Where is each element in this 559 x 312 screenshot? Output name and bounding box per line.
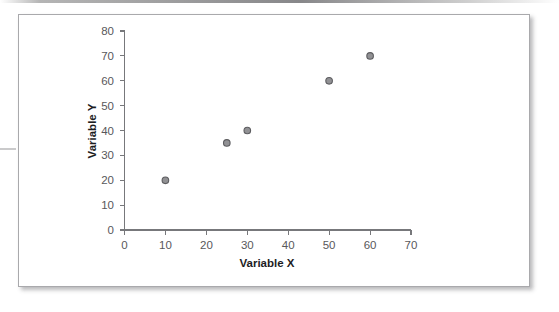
- y-tick-label-70: 70: [101, 50, 114, 62]
- y-tick-label-50: 50: [101, 100, 114, 112]
- x-tick-label-30: 30: [241, 239, 254, 251]
- y-tick-label-20: 20: [101, 174, 114, 186]
- y-tick-label-40: 40: [101, 125, 114, 137]
- data-point-group: [162, 53, 373, 184]
- y-axis-title: Variable Y: [86, 103, 98, 158]
- x-tick-label-40: 40: [282, 239, 295, 251]
- x-tick-label-70: 70: [405, 239, 418, 251]
- data-point[interactable]: [224, 140, 231, 147]
- x-tick-label-0: 0: [121, 239, 127, 251]
- x-tick-label-60: 60: [364, 239, 377, 251]
- scan-artifact-top: [0, 0, 559, 3]
- y-tick-label-60: 60: [101, 75, 114, 87]
- data-point[interactable]: [326, 78, 333, 85]
- y-tick-label-80: 80: [101, 25, 114, 37]
- data-point[interactable]: [244, 127, 251, 134]
- y-tick-label-0: 0: [108, 224, 114, 236]
- data-point[interactable]: [367, 53, 374, 60]
- scatter-plot: 0 10 20 30 40 50 60 70 80: [19, 15, 531, 288]
- scatter-plot-svg: 0 10 20 30 40 50 60 70 80: [19, 15, 531, 288]
- data-point[interactable]: [162, 177, 169, 184]
- figure-card: 0 10 20 30 40 50 60 70 80: [18, 14, 530, 287]
- y-axis-tick-labels: 0 10 20 30 40 50 60 70 80: [101, 25, 114, 236]
- y-axis-ticks: [120, 31, 125, 230]
- x-axis-ticks: [125, 230, 412, 235]
- x-axis-title: Variable X: [240, 257, 295, 269]
- scan-artifact-left: [0, 148, 16, 150]
- x-tick-label-10: 10: [159, 239, 172, 251]
- x-tick-label-20: 20: [200, 239, 213, 251]
- x-axis-tick-labels: 0 10 20 30 40 50 60 70: [121, 239, 417, 251]
- y-tick-label-30: 30: [101, 149, 114, 161]
- x-tick-label-50: 50: [323, 239, 336, 251]
- y-tick-label-10: 10: [101, 199, 114, 211]
